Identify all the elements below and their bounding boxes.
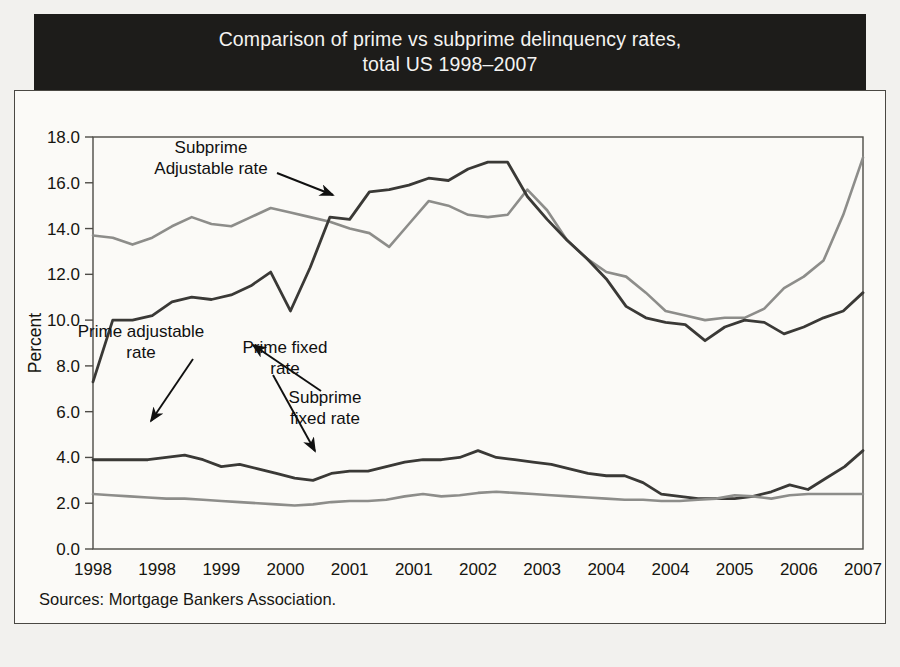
chart-title-banner: Comparison of prime vs subprime delinque… xyxy=(34,14,866,90)
annotation-label-line-1: Prime adjustable xyxy=(78,322,205,341)
annotation-label-line-1: Prime fixed xyxy=(242,338,327,357)
x-axis-tick-label: 1998 xyxy=(138,560,176,579)
y-axis-tick-label: 10.0 xyxy=(47,311,80,330)
series-line-prime-fixed-rate xyxy=(93,492,863,506)
y-axis-tick-label: 16.0 xyxy=(47,174,80,193)
x-axis-tick-label: 2006 xyxy=(780,560,818,579)
annotation-label-line-2: rate xyxy=(126,343,155,362)
chart-panel: 0.02.04.06.08.010.012.014.016.018.0Perce… xyxy=(14,90,886,624)
x-axis-tick-label: 2004 xyxy=(587,560,625,579)
y-axis-title: Percent xyxy=(25,313,45,373)
annotation-subprime-adjustable: SubprimeAdjustable rate xyxy=(154,138,333,195)
x-axis-tick-label: 2001 xyxy=(331,560,369,579)
annotation-subprime-fixed: Subprimefixed rate xyxy=(253,345,361,428)
annotation-label-line-2: Adjustable rate xyxy=(154,159,267,178)
y-axis-tick-label: 18.0 xyxy=(47,128,80,147)
series-line-subprime-fixed-rate xyxy=(93,162,863,382)
y-axis-tick-label: 14.0 xyxy=(47,220,80,239)
x-axis-tick-label: 2000 xyxy=(267,560,305,579)
x-axis-tick-label: 2004 xyxy=(652,560,690,579)
annotation-arrow-icon xyxy=(151,359,193,421)
plot-area: 0.02.04.06.08.010.012.014.016.018.0Perce… xyxy=(15,91,887,625)
annotation-arrow-icon xyxy=(277,173,333,195)
figure-container: Comparison of prime vs subprime delinque… xyxy=(14,14,886,624)
y-axis-tick-label: 12.0 xyxy=(47,265,80,284)
series-line-subprime-adjustable-rate xyxy=(93,158,863,321)
annotation-label-line-2: rate xyxy=(270,359,299,378)
y-axis-tick-label: 0.0 xyxy=(56,540,80,559)
chart-title-line-1: Comparison of prime vs subprime delinque… xyxy=(219,27,682,52)
x-axis-tick-label: 2001 xyxy=(395,560,433,579)
x-axis-tick-label: 2007 xyxy=(844,560,882,579)
y-axis-tick-label: 2.0 xyxy=(56,494,80,513)
x-axis-tick-label: 1998 xyxy=(74,560,112,579)
chart-title-line-2: total US 1998–2007 xyxy=(362,52,537,77)
line-chart-svg: 0.02.04.06.08.010.012.014.016.018.0Perce… xyxy=(15,91,887,625)
x-axis-tick-label: 2002 xyxy=(459,560,497,579)
annotation-label-line-1: Subprime xyxy=(175,138,248,157)
x-axis-tick-label: 2005 xyxy=(716,560,754,579)
y-axis-tick-label: 4.0 xyxy=(56,448,80,467)
source-note: Sources: Mortgage Bankers Association. xyxy=(39,590,336,609)
annotation-label-line-1: Subprime xyxy=(289,388,362,407)
x-axis-tick-label: 1999 xyxy=(202,560,240,579)
y-axis-tick-label: 8.0 xyxy=(56,357,80,376)
series-line-prime-adjustable-rate xyxy=(93,451,863,499)
plot-frame xyxy=(93,137,863,549)
y-axis-tick-label: 6.0 xyxy=(56,403,80,422)
x-axis-tick-label: 2003 xyxy=(523,560,561,579)
